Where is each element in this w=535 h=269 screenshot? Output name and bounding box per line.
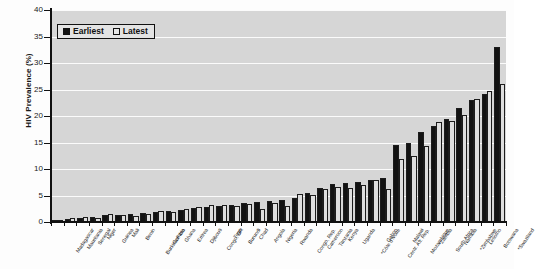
bar-latest <box>196 207 201 222</box>
x-axis-tick-mark <box>89 222 90 226</box>
y-axis-tick-mark <box>44 37 51 38</box>
bar-latest <box>297 194 302 222</box>
bar-latest <box>323 189 328 222</box>
bar-latest <box>436 122 441 222</box>
x-axis-tick-mark <box>430 222 431 226</box>
x-axis-tick-mark <box>329 222 330 226</box>
y-axis-tick-mark <box>44 143 51 144</box>
x-axis-tick-mark <box>139 222 140 226</box>
x-axis-tick-label: Uganda <box>361 227 376 245</box>
x-axis-tick-mark <box>279 222 280 226</box>
bar-latest <box>424 146 429 222</box>
x-axis-tick-mark <box>215 222 216 226</box>
y-axis-tick-mark <box>44 90 51 91</box>
x-axis-tick-mark <box>253 222 254 226</box>
x-axis-tick-mark <box>177 222 178 226</box>
x-axis-tick-label: Djibouti <box>209 227 223 244</box>
y-axis-tick-label: 20 <box>5 111 43 120</box>
x-axis-tick-mark <box>506 222 507 226</box>
x-axis-tick-mark <box>114 222 115 226</box>
x-axis-tick-label: Namibia <box>462 227 477 246</box>
bar-latest <box>247 204 252 222</box>
bar-latest <box>487 91 492 222</box>
gridline <box>51 90 506 91</box>
bar-latest <box>260 209 265 222</box>
x-axis-tick-label: Eritrea <box>195 227 208 243</box>
x-axis-tick-mark <box>405 222 406 226</box>
bar-latest <box>462 115 467 222</box>
legend-swatch-earliest-icon <box>63 28 70 35</box>
bar-latest <box>500 84 505 222</box>
x-axis-tick-mark <box>468 222 469 226</box>
bar-latest <box>222 205 227 222</box>
x-axis-tick-label: Nigeria <box>284 227 298 244</box>
y-axis-tick-mark <box>44 169 51 170</box>
y-axis-tick-label: 5 <box>5 191 43 200</box>
bar-latest <box>411 156 416 222</box>
x-axis-tick-mark <box>418 222 419 226</box>
y-axis-tick-label: 30 <box>5 58 43 67</box>
x-axis-tick-mark <box>380 222 381 226</box>
y-axis-tick-mark <box>44 63 51 64</box>
y-axis-tick-label: 15 <box>5 138 43 147</box>
x-axis-tick-mark <box>481 222 482 226</box>
bar-latest <box>209 205 214 222</box>
x-axis-tick-mark <box>291 222 292 226</box>
y-axis-tick-label: 40 <box>5 5 43 14</box>
x-axis-tick-label: Togo <box>232 227 243 240</box>
x-axis-tick-mark <box>455 222 456 226</box>
legend-entry-latest: Latest <box>113 27 148 36</box>
x-axis-tick-mark <box>64 222 65 226</box>
gridline <box>51 63 506 64</box>
y-axis-tick-mark <box>44 222 51 223</box>
x-axis-tick-mark <box>127 222 128 226</box>
x-axis-tick-mark <box>493 222 494 226</box>
x-axis-tick-mark <box>266 222 267 226</box>
plot-area <box>51 10 506 222</box>
bar-latest <box>449 121 454 222</box>
x-axis-tick-mark <box>392 222 393 226</box>
chart-legend: Earliest Latest <box>57 24 155 39</box>
x-axis-tick-label: Rwanda <box>298 227 313 246</box>
x-axis-tick-mark <box>165 222 166 226</box>
x-axis-tick-mark <box>304 222 305 226</box>
bar-latest <box>386 189 391 222</box>
x-axis-tick-mark <box>342 222 343 226</box>
gridline <box>51 10 506 11</box>
bar-latest <box>399 159 404 222</box>
x-axis-tick-mark <box>228 222 229 226</box>
bar-latest <box>335 187 340 223</box>
x-axis-tick-labels: MadagascarMauritaniaSenegalNigerGuineaMa… <box>51 227 506 269</box>
x-axis-tick-mark <box>102 222 103 226</box>
legend-label-earliest: Earliest <box>73 27 104 36</box>
x-axis-tick-mark <box>76 222 77 226</box>
bar-latest <box>361 185 366 222</box>
y-axis-tick-label: 35 <box>5 32 43 41</box>
bar-latest <box>285 206 290 222</box>
x-axis-tick-mark <box>354 222 355 226</box>
y-axis-tick-labels: 0510152025303540 <box>0 0 43 269</box>
x-axis-tick-mark <box>316 222 317 226</box>
x-axis-tick-mark <box>190 222 191 226</box>
bar-latest <box>272 203 277 222</box>
legend-entry-earliest: Earliest <box>63 27 104 36</box>
bar-latest <box>310 195 315 222</box>
legend-swatch-latest-icon <box>113 28 120 35</box>
x-axis-tick-mark <box>203 222 204 226</box>
x-axis-tick-mark <box>241 222 242 226</box>
x-axis-tick-mark <box>443 222 444 226</box>
y-axis-tick-label: 25 <box>5 85 43 94</box>
x-axis-tick-label: Benin <box>144 227 156 241</box>
gridline <box>51 116 506 117</box>
y-axis-tick-label: 10 <box>5 164 43 173</box>
y-axis-tick-mark <box>44 196 51 197</box>
y-axis-tick-mark <box>44 116 51 117</box>
bar-latest <box>348 188 353 222</box>
bar-latest <box>373 180 378 222</box>
x-axis-tick-mark <box>367 222 368 226</box>
legend-label-latest: Latest <box>123 27 148 36</box>
x-axis-tick-mark <box>51 222 52 226</box>
x-axis-tick-mark <box>152 222 153 226</box>
bar-latest <box>474 99 479 222</box>
